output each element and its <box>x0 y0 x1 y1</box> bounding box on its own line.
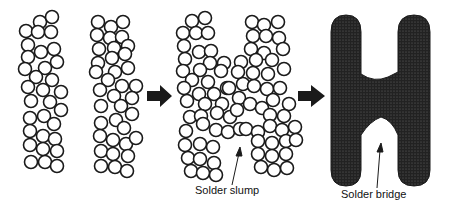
solder-slump-label: Solder slump <box>195 184 259 196</box>
solder-bridge-label: Solder bridge <box>341 188 406 200</box>
solder-bridge-shape <box>331 15 430 186</box>
right-paste-column <box>90 16 143 178</box>
slump-pointer-arrow <box>232 147 242 185</box>
arrow-2 <box>298 85 325 107</box>
bridge-pointer-arrow <box>377 143 383 188</box>
left-paste-column <box>19 11 68 173</box>
diagram-canvas <box>0 0 456 210</box>
arrow-1 <box>147 85 172 107</box>
